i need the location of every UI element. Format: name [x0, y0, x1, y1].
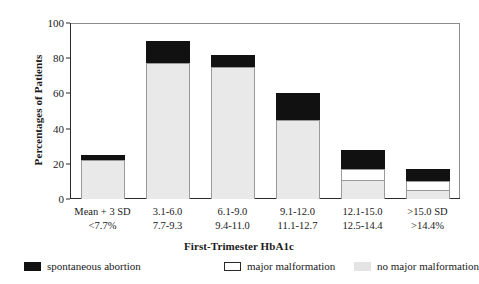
bar-segment-spontaneous-abortion [146, 41, 190, 64]
bar-segment-spontaneous-abortion [211, 55, 255, 67]
x-tick-line2: 11.1-12.7 [278, 219, 318, 233]
stacked-bar[interactable] [406, 169, 450, 199]
bar-slot [70, 23, 135, 199]
x-tick-line2: 12.5-14.4 [342, 219, 382, 233]
stacked-bar[interactable] [146, 41, 190, 199]
bar-slot [395, 23, 460, 199]
bar-segment-spontaneous-abortion [406, 169, 450, 181]
x-tick-label: Mean + 3 SD<7.7% [74, 205, 130, 233]
stacked-bar[interactable] [211, 55, 255, 199]
x-tick-label: 9.1-12.011.1-12.7 [278, 205, 318, 233]
bar-segment-no-major-malformation [341, 180, 385, 199]
legend-swatch-white [224, 262, 241, 271]
x-tick-line2: 9.4-11.0 [215, 219, 250, 233]
bar-segment-major-malformation [406, 181, 450, 190]
bar-slot [330, 23, 395, 199]
x-tick-label: 12.1-15.012.5-14.4 [342, 205, 382, 233]
bar-slot [135, 23, 200, 199]
stacked-bar[interactable] [81, 155, 125, 199]
legend-item-no-major-malformation[interactable]: no major malformation [354, 260, 479, 272]
legend-label: no major malformation [377, 260, 479, 272]
x-tick-line1: Mean + 3 SD [74, 206, 130, 217]
y-tick-label: 0 [24, 194, 70, 205]
legend-label: major malformation [247, 260, 335, 272]
legend-swatch-black [24, 262, 41, 271]
chart-legend: spontaneous abortionmajor malformationno… [24, 260, 464, 276]
y-tick-label: 40 [24, 123, 70, 134]
x-tick-line1: 9.1-12.0 [280, 206, 315, 217]
plot-area: 020406080100 [70, 23, 460, 199]
bar-slot [200, 23, 265, 199]
x-tick-label: 3.1-6.07.7-9.3 [153, 205, 183, 233]
x-tick-line2: 7.7-9.3 [153, 219, 183, 233]
legend-swatch-gray [354, 262, 371, 271]
x-tick-line2: <7.7% [74, 219, 130, 233]
x-tick-line1: 3.1-6.0 [153, 206, 183, 217]
x-tick-line2: >14.4% [407, 219, 447, 233]
x-tick-line1: >15.0 SD [407, 206, 447, 217]
y-tick-label: 20 [24, 158, 70, 169]
x-tick-line1: 12.1-15.0 [342, 206, 382, 217]
y-tick-label: 80 [24, 53, 70, 64]
bar-segment-no-major-malformation [81, 160, 125, 199]
legend-label: spontaneous abortion [47, 260, 141, 272]
bar-segment-spontaneous-abortion [276, 93, 320, 119]
bar-segment-no-major-malformation [211, 67, 255, 199]
x-tick-label: >15.0 SD>14.4% [407, 205, 447, 233]
x-tick-label: 6.1-9.09.4-11.0 [215, 205, 250, 233]
bar-segment-major-malformation [341, 169, 385, 180]
bar-group [70, 23, 460, 199]
bar-slot [265, 23, 330, 199]
x-tick-line1: 6.1-9.0 [218, 206, 248, 217]
x-axis-ticks: Mean + 3 SD<7.7%3.1-6.07.7-9.36.1-9.09.4… [70, 205, 460, 239]
legend-item-spontaneous-abortion[interactable]: spontaneous abortion [24, 260, 141, 272]
bar-segment-no-major-malformation [406, 190, 450, 199]
y-axis-title: Percentages of Patients [32, 20, 44, 200]
y-tick-label: 100 [24, 18, 70, 29]
stacked-bar[interactable] [341, 150, 385, 199]
legend-item-major-malformation[interactable]: major malformation [224, 260, 335, 272]
bar-segment-no-major-malformation [146, 63, 190, 199]
y-tick-label: 60 [24, 88, 70, 99]
x-axis-title: First-Trimester HbA1c [0, 240, 478, 252]
bar-segment-no-major-malformation [276, 120, 320, 199]
bar-segment-spontaneous-abortion [341, 150, 385, 169]
stacked-bar[interactable] [276, 93, 320, 199]
